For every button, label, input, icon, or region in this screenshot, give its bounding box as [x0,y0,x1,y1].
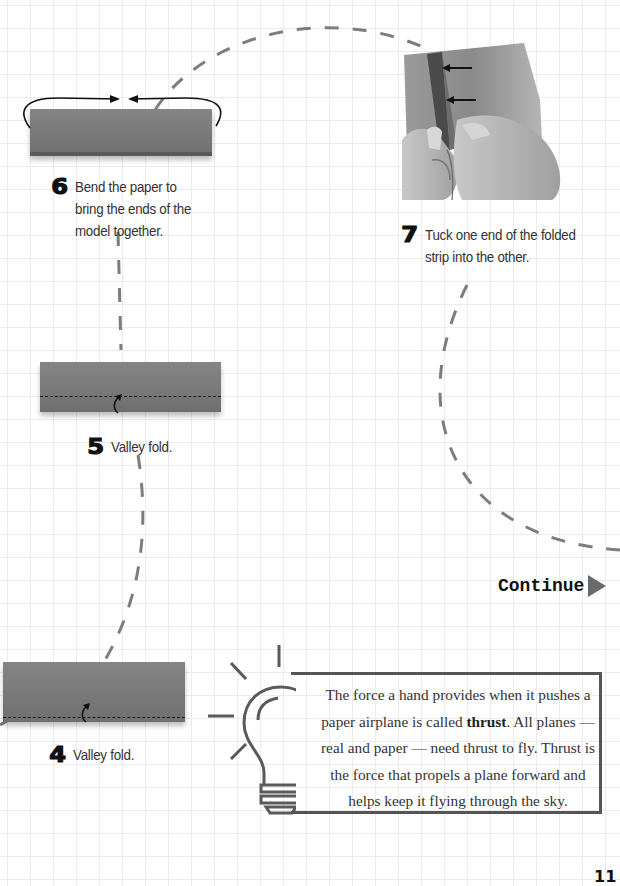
step-text: Bend the paper to bring the ends of the … [75,176,191,242]
continue-label: Continue [498,576,584,596]
step-6: 6 Bend the paper to bring the ends of th… [52,176,210,242]
tip-bold-term: thrust [466,713,506,730]
page-number: 11 [594,867,616,886]
step-7: 7 Tuck one end of the folded strip into … [402,224,600,268]
paper-strip-step-5 [40,362,221,412]
valley-fold-line [40,396,221,397]
bend-arrows-icon [18,92,228,132]
light-bulb-icon [206,635,296,815]
step-text: Valley fold. [73,744,134,766]
step-text: Valley fold. [111,436,172,458]
tuck-photo [402,40,582,200]
arrow-left-icon [446,95,476,105]
continue-link[interactable]: Continue [498,575,606,597]
step-number: 4 [49,744,66,766]
step-5: 5 Valley fold. [88,436,182,458]
paper-strip-step-4 [3,662,185,722]
fold-up-arrow-icon [110,392,124,414]
fold-up-arrow-icon [78,701,92,723]
step-number: 7 [401,224,418,246]
strip-bottom-edge [30,152,212,156]
tip-text: The force a hand provides when it pushes… [313,682,603,815]
step-4: 4 Valley fold. [50,744,144,766]
hands-tucking-strip-image [402,40,582,200]
arrow-left-icon [442,63,472,73]
valley-fold-line [3,717,185,718]
step-text: Tuck one end of the folded strip into th… [425,224,576,268]
step-number: 5 [87,436,104,458]
step-number: 6 [51,176,68,198]
triangle-right-icon [588,575,606,597]
